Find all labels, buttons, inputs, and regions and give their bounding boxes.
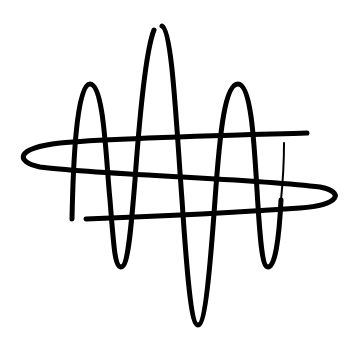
wave-segment-1 — [72, 30, 154, 267]
waveform-logo-icon — [0, 0, 358, 352]
logo-canvas — [0, 0, 358, 352]
